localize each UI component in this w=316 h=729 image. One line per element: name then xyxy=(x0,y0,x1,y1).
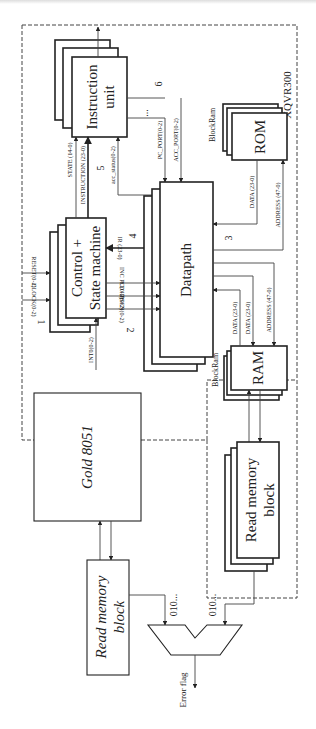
instruction-unit-block: Instruction unit xyxy=(55,40,127,137)
dots-label: ... xyxy=(139,109,150,117)
block-diagram: XQVR300 Instruction unit ... 6 Control +… xyxy=(0,0,316,729)
datapath-label: Datapath xyxy=(178,242,194,297)
rom-data-label: DATA (23-0) xyxy=(248,176,256,209)
ram-block: RAM xyxy=(224,346,287,400)
error-flag-label: Error flag xyxy=(178,672,188,708)
rom-label: ROM xyxy=(252,120,268,154)
number-1: 1 xyxy=(36,320,47,325)
number-5: 5 xyxy=(95,166,106,171)
ram-blockram-tag: BlockRam xyxy=(211,352,220,387)
read-memory-left-label: Read memory xyxy=(93,575,109,659)
state-machine-label: State machine xyxy=(87,225,103,310)
stream-right-label: 010... xyxy=(207,594,218,617)
psen-label: PSEN(0-2) xyxy=(118,295,126,323)
gold-8051-block: Gold 8051 xyxy=(34,393,141,521)
read-memory-left-label-2: block xyxy=(111,600,127,633)
control-state-machine-block: Control + State machine xyxy=(50,218,106,332)
int-label: INT0(0-2) xyxy=(87,337,95,363)
acc-port-label: ACC_PORT(0-2) xyxy=(172,118,180,162)
instruction-unit-label: Instruction xyxy=(84,64,100,129)
number-2: 2 xyxy=(125,328,136,333)
rom-blockram-tag: BlockRam xyxy=(208,107,217,142)
clock-label: CLOCK(0-2) xyxy=(30,283,38,316)
rom-address-label: ADDRESS (47-0) xyxy=(274,182,282,227)
state-label: STATE (14-0) xyxy=(66,142,74,177)
ram-label: RAM xyxy=(250,351,266,385)
control-label: Control + xyxy=(69,239,85,297)
rom-block: ROM xyxy=(223,104,287,160)
ram-data-in-label: DATA (23-0) xyxy=(244,302,252,335)
comparator-block xyxy=(148,625,242,655)
number-3: 3 xyxy=(223,236,234,241)
number-4: 4 xyxy=(127,234,138,239)
ram-data-out-label: DATA (23-0) xyxy=(231,302,239,335)
acc-status-wire xyxy=(118,137,160,195)
number-6: 6 xyxy=(153,82,164,87)
acc-status-label: acc_status(0-2) xyxy=(109,146,117,184)
instruction-label: INSTRUCTION (23-0) xyxy=(79,146,87,204)
ram-address-label: ADDRESS (47-0) xyxy=(265,287,273,332)
read-memory-right-label-2: block xyxy=(261,483,277,517)
ir-label: IR (23-0) xyxy=(116,236,124,259)
stream-left-label: 010... xyxy=(168,594,179,617)
read-memory-block-left: Read memory block xyxy=(87,560,129,675)
datapath-block: Datapath xyxy=(144,182,213,371)
pc-port-label: PC_PORT(0-2) xyxy=(156,121,164,159)
read-memory-block-right: Read memory block xyxy=(225,442,279,571)
read-memory-right-label: Read memory xyxy=(243,457,259,542)
gold-8051-label: Gold 8051 xyxy=(79,425,95,489)
stream-left-wire xyxy=(129,595,165,625)
instruction-unit-label-2: unit xyxy=(101,85,117,109)
